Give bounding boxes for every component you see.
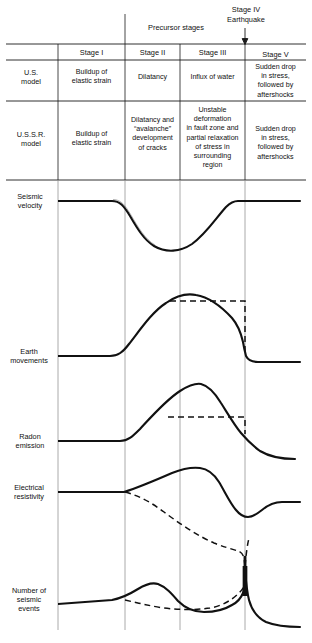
down-arrow-icon (242, 28, 248, 45)
plot-seismic-events (58, 571, 300, 627)
stage-header-4: Stage V (245, 50, 306, 59)
cell-ussr-stage1: Buildup of elastic strain (58, 130, 125, 148)
plot-label-seismic-events-line2: seismic (0, 595, 58, 604)
plot-earth-movements-dashed (170, 301, 245, 352)
plot-label-seismic-velocity-line2: velocity (2, 201, 58, 210)
plot-label-seismic-velocity-line1: Seismic (2, 192, 58, 201)
plot-seismic-velocity (58, 201, 300, 251)
plot-label-earth-movements-line2: movements (0, 356, 58, 365)
cell-ussr-stage3: Unstable deformation in fault zone and p… (179, 106, 246, 170)
plot-label-radon-emission-line1: Radon (2, 432, 58, 441)
plot-label-radon-emission-line2: emission (2, 441, 58, 450)
row-label-us-model-line2: model (4, 77, 58, 86)
cell-ussr-stage5: Sudden drop in stress, followed by after… (245, 125, 306, 162)
earthquake-marker-line1: Stage IV (208, 5, 284, 14)
stage-header-3: Stage III (180, 48, 245, 57)
row-label-us-model-line1: U.S. (4, 68, 58, 77)
plot-label-earth-movements-line1: Earth (0, 347, 58, 356)
precursor-stages-label: Precursor stages (131, 23, 221, 32)
plot-label-electrical-resistivity-line2: resistivity (0, 492, 58, 501)
plot-earth-movements (58, 294, 300, 362)
stage-header-2: Stage II (125, 48, 180, 57)
plot-electrical-resistivity (58, 468, 300, 517)
plot-radon-emission-dashed (168, 417, 245, 434)
row-label-ussr-model-line2: model (2, 139, 60, 148)
row-label-ussr-model-line1: U.S.S.R. (2, 130, 60, 139)
stage-header-1: Stage I (58, 48, 125, 57)
cell-us-stage5: Sudden drop in stress, followed by after… (245, 63, 306, 100)
cell-ussr-stage2: Dilatancy and “avalanche” development of… (124, 116, 181, 153)
plot-label-seismic-events-line1: Number of (0, 586, 58, 595)
earthquake-precursor-figure: Precursor stages Stage IV Earthquake Sta… (0, 0, 312, 643)
plot-label-seismic-events-line3: events (0, 604, 58, 613)
cell-us-stage3: Influx of water (180, 73, 245, 82)
plot-radon-emission (58, 384, 295, 459)
plot-grid (58, 180, 245, 630)
plot-label-electrical-resistivity-line1: Electrical (0, 483, 58, 492)
earthquake-marker-line2: Earthquake (208, 15, 284, 24)
cell-us-stage2: Dilatancy (125, 73, 180, 82)
cell-us-stage1: Buildup of elastic strain (58, 68, 125, 86)
